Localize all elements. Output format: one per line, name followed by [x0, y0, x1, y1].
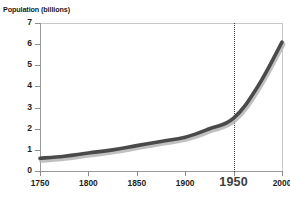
plot-area: 01234567 175018001850190019502000 [40, 23, 283, 172]
y-tick-label: 4 [18, 80, 32, 91]
x-tick-label: 1800 [62, 178, 114, 188]
y-tick-label: 0 [18, 165, 32, 176]
x-tick-label: 1850 [111, 178, 163, 188]
population-chart: Population (billions) 01234567 175018001… [0, 0, 290, 211]
y-tick-label: 2 [18, 123, 32, 134]
y-tick-label: 3 [18, 102, 32, 113]
x-tick-label: 2000 [256, 178, 290, 188]
x-tick-label: 1950 [208, 175, 260, 189]
series-plot [40, 23, 283, 172]
series-line [40, 42, 282, 158]
y-tick-label: 5 [18, 59, 32, 70]
y-tick-label: 6 [18, 38, 32, 49]
y-tick-label: 1 [18, 144, 32, 155]
x-tick-label: 1900 [159, 178, 211, 188]
x-tick-label: 1750 [14, 178, 66, 188]
y-axis-title: Population (billions) [3, 5, 70, 14]
y-tick-label: 7 [18, 17, 32, 28]
